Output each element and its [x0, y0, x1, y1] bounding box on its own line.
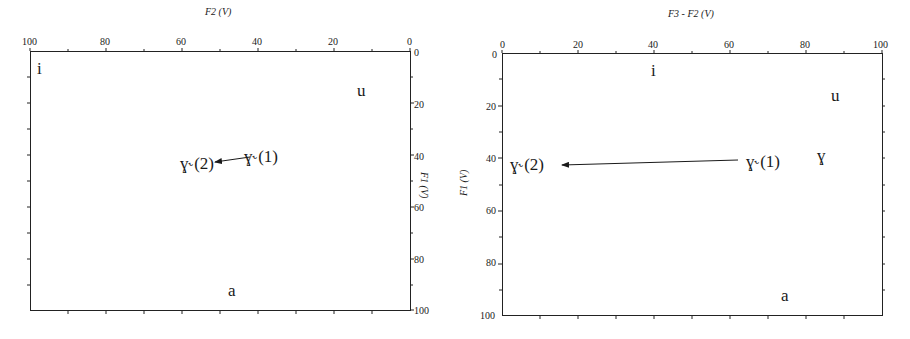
chart-ticks-and-arrows	[0, 0, 910, 339]
left-arrow	[215, 157, 250, 162]
right-ticks	[498, 50, 885, 319]
left-x-ticks	[27, 48, 414, 314]
right-arrow	[562, 160, 738, 165]
